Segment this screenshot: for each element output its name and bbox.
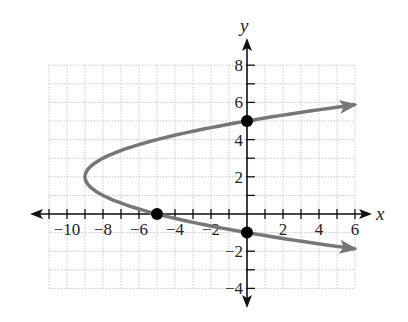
- y-tick-label: 4: [235, 131, 244, 150]
- x-axis-title: x: [375, 203, 385, 224]
- intercept-point: [241, 115, 253, 127]
- x-tick-label: 6: [351, 220, 360, 239]
- x-tick-label: 2: [279, 220, 288, 239]
- x-tick-label: −4: [166, 220, 185, 239]
- x-tick-label: −10: [54, 220, 81, 239]
- y-tick-label: 8: [235, 56, 244, 75]
- parabola-chart: −10−8−6−4−22468642−2−4 x y: [0, 0, 408, 322]
- intercept-point: [241, 227, 253, 239]
- x-tick-label: −2: [202, 220, 220, 239]
- x-tick-label: 4: [315, 220, 324, 239]
- x-tick-label: −6: [130, 220, 148, 239]
- y-tick-label: −4: [225, 279, 244, 298]
- y-tick-label: 2: [235, 168, 244, 187]
- y-tick-label: −2: [225, 242, 243, 261]
- grid-lines: [49, 65, 355, 288]
- axes: [30, 38, 372, 308]
- y-tick-label: 6: [235, 93, 244, 112]
- x-tick-label: −8: [94, 220, 112, 239]
- y-axis-title: y: [238, 15, 249, 36]
- intercept-point: [151, 208, 163, 220]
